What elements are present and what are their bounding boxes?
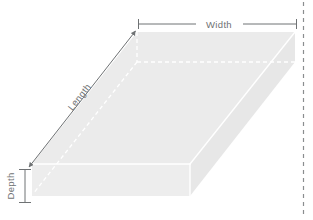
- box-solid: [32, 32, 295, 196]
- width-label: Width: [206, 19, 232, 30]
- depth-label: Depth: [5, 172, 16, 199]
- diagram-canvas: Width Length Depth: [0, 0, 313, 220]
- dimension-depth: [19, 170, 31, 203]
- box-face-front: [32, 164, 190, 196]
- box-dimensions-diagram: Width Length Depth: [0, 0, 313, 220]
